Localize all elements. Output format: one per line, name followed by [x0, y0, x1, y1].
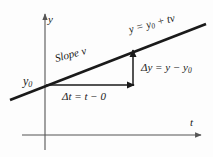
physics-line-graph-figure: y t y0 Slope v y = y0 + tv Δy = y − y0 Δ…: [0, 0, 213, 157]
t-axis-label: t: [190, 117, 193, 128]
delta-y-label: Δy = y − y0: [141, 62, 192, 74]
delta-y-subscript: 0: [188, 66, 192, 75]
y-intercept-label: y0: [23, 75, 32, 89]
y-axis-label: y: [48, 14, 53, 25]
delta-t-label: Δt = t − 0: [62, 91, 106, 102]
delta-y-lead: Δy = y − y: [141, 61, 188, 73]
y-intercept-subscript: 0: [28, 80, 32, 89]
